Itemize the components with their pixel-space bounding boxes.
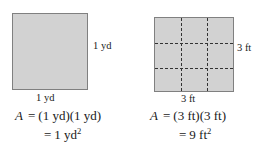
dimension-label-foot-bottom: 3 ft xyxy=(181,93,195,105)
area-result-foot: 9 ft xyxy=(189,127,207,142)
equals-sign-yard-1: = xyxy=(25,108,38,123)
area-variable-yard: A xyxy=(15,108,25,123)
equation-line-1-yard: A=(1 yd)(1 yd) xyxy=(15,106,101,125)
area-result-yard: 1 yd xyxy=(54,127,77,142)
grid-line-vertical-1 xyxy=(181,18,182,91)
equals-sign-yard-2: = xyxy=(41,127,54,142)
dimension-label-yard-bottom: 1 yd xyxy=(36,92,54,104)
figure-square-yard: 1 yd 1 yd A=(1 yd)(1 yd) =1 yd2 xyxy=(0,0,132,159)
dimension-label-yard-side: 1 yd xyxy=(93,40,111,52)
square-shape-yard xyxy=(12,13,88,90)
grid-line-vertical-2 xyxy=(207,18,208,91)
grid-line-horizontal-2 xyxy=(155,68,233,69)
figure-square-foot: 3 ft 3 ft A=(3 ft)(3 ft) =9 ft2 xyxy=(132,0,264,159)
equals-sign-foot-2: = xyxy=(176,127,189,142)
equation-line-2-foot: =9 ft2 xyxy=(150,125,226,144)
area-expression-foot: (3 ft)(3 ft) xyxy=(173,108,226,123)
area-exponent-foot: 2 xyxy=(207,126,211,136)
equation-line-2-yard: =1 yd2 xyxy=(15,125,101,144)
area-variable-foot: A xyxy=(150,108,160,123)
square-shape-foot xyxy=(154,17,234,92)
equals-sign-foot-1: = xyxy=(160,108,173,123)
equation-block-yard: A=(1 yd)(1 yd) =1 yd2 xyxy=(15,106,101,144)
area-exponent-yard: 2 xyxy=(77,126,81,136)
dimension-label-foot-side: 3 ft xyxy=(237,42,251,54)
equation-block-foot: A=(3 ft)(3 ft) =9 ft2 xyxy=(150,106,226,144)
area-expression-yard: (1 yd)(1 yd) xyxy=(38,108,101,123)
equation-line-1-foot: A=(3 ft)(3 ft) xyxy=(150,106,226,125)
grid-line-horizontal-1 xyxy=(155,43,233,44)
